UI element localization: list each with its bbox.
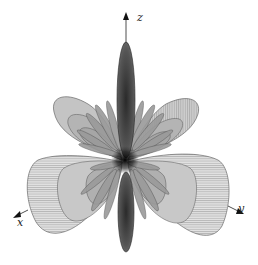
main-lobe-upper	[117, 42, 135, 158]
z-axis-arrow-icon	[123, 12, 129, 20]
y-axis-label: y	[238, 203, 244, 214]
x-axis-label: x	[17, 217, 23, 228]
radiation-pattern-figure: z x y	[0, 0, 258, 265]
radiation-pattern-plot	[0, 0, 258, 265]
z-axis-label: z	[137, 12, 143, 23]
main-lobe-lower	[118, 172, 134, 252]
pattern-origin	[111, 146, 139, 174]
